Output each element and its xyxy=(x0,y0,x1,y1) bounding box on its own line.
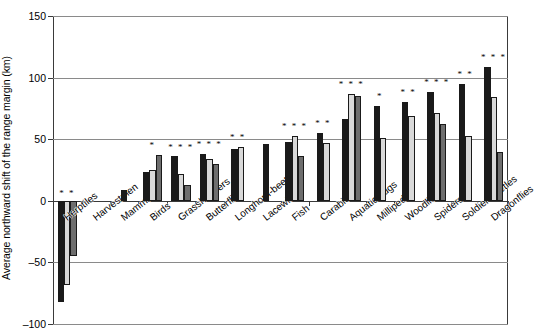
significance-marker: * * * xyxy=(339,80,365,89)
bar xyxy=(298,156,304,200)
significance-marker: * * xyxy=(59,189,75,198)
y-tick-label: –100 xyxy=(12,318,46,330)
bar xyxy=(465,136,471,201)
significance-marker: * * xyxy=(230,133,246,142)
plot-area: HerptilesHarvestmenMammalsBirdsGrasshopp… xyxy=(53,16,508,324)
bar xyxy=(238,147,244,201)
significance-marker: * xyxy=(150,141,156,150)
significance-marker: * * * xyxy=(168,143,194,152)
bar xyxy=(408,116,414,201)
bar xyxy=(184,185,190,201)
plot-left-border xyxy=(53,16,54,324)
bar xyxy=(323,143,329,201)
y-tick-mark xyxy=(48,139,53,140)
y-tick-mark xyxy=(48,262,53,263)
significance-marker: * * * xyxy=(481,53,507,62)
significance-marker: * * xyxy=(457,70,473,79)
significance-marker: * * xyxy=(401,88,417,97)
y-tick-label: 150 xyxy=(12,10,46,22)
significance-marker: * * * xyxy=(424,78,450,87)
bar xyxy=(121,190,127,201)
gridline--50 xyxy=(53,262,508,263)
x-tick-mark xyxy=(309,201,310,206)
bar xyxy=(440,124,446,200)
significance-marker: * * * xyxy=(197,140,223,149)
bar xyxy=(355,96,361,201)
y-tick-mark xyxy=(48,324,53,325)
plot-right-border xyxy=(507,16,508,324)
gridline-150 xyxy=(53,16,508,17)
bar xyxy=(263,144,269,201)
significance-marker: * xyxy=(377,92,383,101)
y-tick-label: 0 xyxy=(12,195,46,207)
gridline--100 xyxy=(53,324,508,325)
y-tick-mark xyxy=(48,16,53,17)
x-axis-category-label: Birds xyxy=(147,200,172,223)
y-tick-label: –50 xyxy=(12,256,46,268)
bar xyxy=(156,155,162,201)
x-axis-category-label: Fish xyxy=(289,202,311,222)
bar xyxy=(497,152,503,201)
y-tick-label: 50 xyxy=(12,133,46,145)
bar xyxy=(380,138,386,201)
significance-marker: * * xyxy=(315,119,331,128)
y-tick-label: 100 xyxy=(12,72,46,84)
y-tick-mark xyxy=(48,201,53,202)
significance-marker: * * * xyxy=(282,122,308,131)
y-tick-mark xyxy=(48,78,53,79)
bar xyxy=(213,164,219,201)
